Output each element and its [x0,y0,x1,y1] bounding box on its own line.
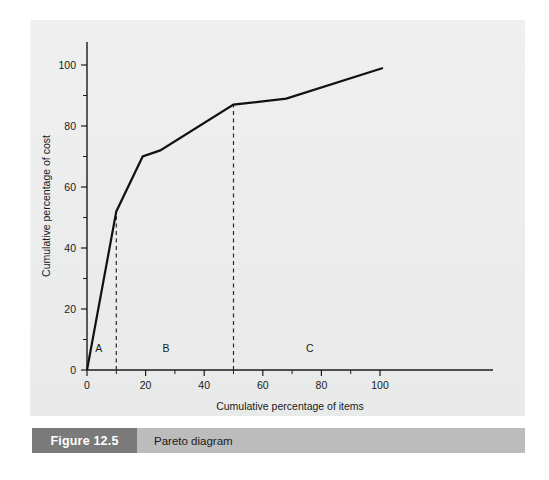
region-label-b: B [163,342,170,354]
x-tick-label: 20 [140,379,152,391]
y-tick-label: 100 [58,59,76,71]
x-axis-title: Cumulative percentage of items [216,400,364,412]
figure-caption-bar: Figure 12.5 Pareto diagram [32,428,525,453]
region-label-a: A [95,342,102,354]
x-tick-label: 40 [198,379,210,391]
figure-title-label: Pareto diagram [137,428,525,453]
region-label-c: C [306,342,314,354]
figure-container: 020406080100 020406080100 ABC Cumulative… [0,0,549,480]
y-axis-ticks [81,65,87,370]
cumulative-cost-line [87,68,383,370]
figure-number-label: Figure 12.5 [32,428,137,453]
x-tick-label: 100 [371,379,389,391]
y-tick-label: 80 [64,120,76,132]
x-tick-label: 80 [316,379,328,391]
y-tick-label: 40 [64,242,76,254]
x-tick-label: 60 [257,379,269,391]
x-axis-tick-labels: 020406080100 [84,379,389,391]
region-labels: ABC [95,342,314,354]
x-tick-label: 0 [84,379,90,391]
region-dividers [116,105,233,370]
y-tick-label: 20 [64,303,76,315]
pareto-chart: 020406080100 020406080100 ABC Cumulative… [30,20,525,416]
y-tick-label: 0 [70,364,76,376]
x-axis-ticks [87,370,380,376]
y-axis-tick-labels: 020406080100 [58,59,76,376]
y-tick-label: 60 [64,181,76,193]
y-axis-title: Cumulative percentage of cost [40,135,52,277]
